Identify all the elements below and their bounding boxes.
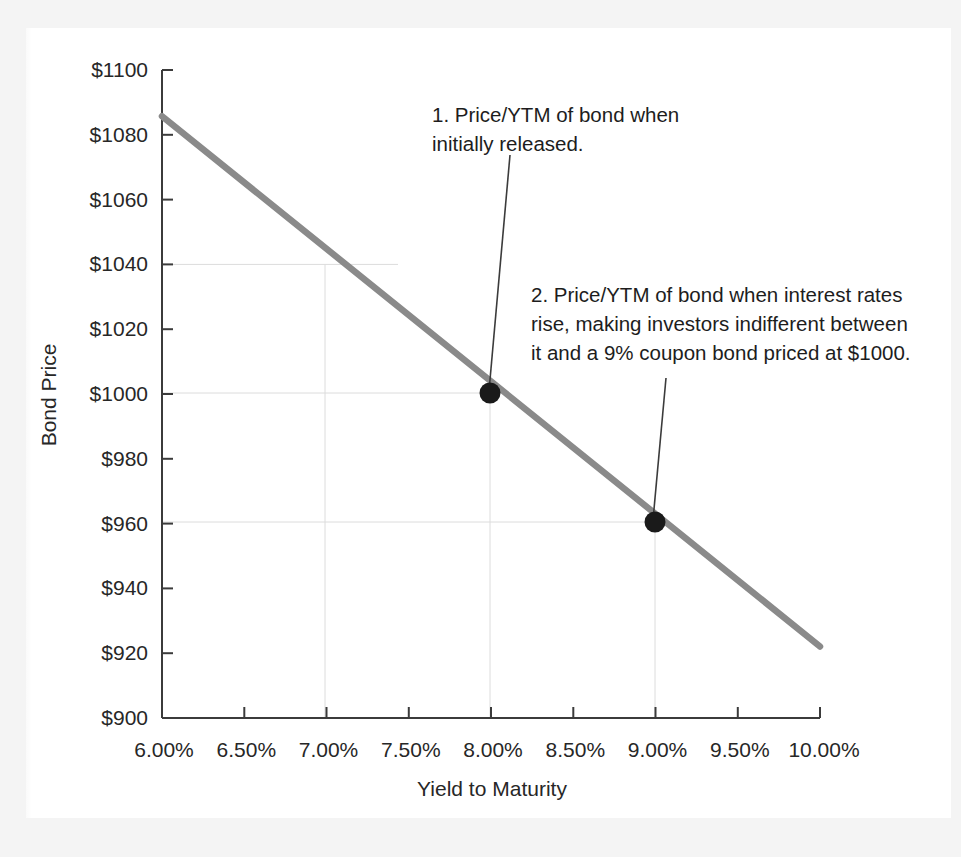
y-tick-label-1060: $1060 xyxy=(90,188,148,211)
y-axis-title: Bond Price xyxy=(37,344,60,447)
y-axis-ticks xyxy=(162,70,173,653)
y-tick-label-940: $940 xyxy=(101,576,148,599)
data-point-markers xyxy=(480,383,666,533)
leader-line-2 xyxy=(653,378,666,520)
x-tick-label-8.00: 8.00% xyxy=(463,738,523,761)
leader-line-1 xyxy=(489,155,510,391)
y-tick-label-920: $920 xyxy=(101,641,148,664)
y-tick-label-960: $960 xyxy=(101,512,148,535)
y-tick-label-980: $980 xyxy=(101,447,148,470)
x-tick-label-6.00: 6.00% xyxy=(134,738,194,761)
x-tick-label-7.50: 7.50% xyxy=(381,738,441,761)
x-tick-label-9.00: 9.00% xyxy=(628,738,688,761)
data-point-marker-1[interactable] xyxy=(480,383,501,404)
x-tick-label-7.00: 7.00% xyxy=(299,738,359,761)
annotation-1: 1. Price/YTM of bond when initially rele… xyxy=(432,103,679,155)
data-point-marker-2[interactable] xyxy=(645,512,666,533)
annotation-2: 2. Price/YTM of bond when interest rates… xyxy=(531,283,911,364)
y-tick-label-1040: $1040 xyxy=(90,252,148,275)
bond-price-yield-chart: $1100 $1080 $1060 $1040 $1020 $1000 $980… xyxy=(0,0,961,857)
annotation-2-line-3: it and a 9% coupon bond priced at $1000. xyxy=(531,341,911,364)
annotation-1-line-2: initially released. xyxy=(432,132,584,155)
x-axis-title: Yield to Maturity xyxy=(417,777,567,800)
page-canvas: $1100 $1080 $1060 $1040 $1020 $1000 $980… xyxy=(0,0,961,857)
y-tick-label-900: $900 xyxy=(101,706,148,729)
annotation-1-line-1: 1. Price/YTM of bond when xyxy=(432,103,679,126)
y-tick-label-1000: $1000 xyxy=(90,382,148,405)
x-tick-label-10.00: 10.00% xyxy=(788,738,859,761)
annotation-2-line-1: 2. Price/YTM of bond when interest rates xyxy=(531,283,902,306)
x-tick-label-6.50: 6.50% xyxy=(217,738,277,761)
chart-svg: $1100 $1080 $1060 $1040 $1020 $1000 $980… xyxy=(0,0,961,857)
y-tick-label-1080: $1080 xyxy=(90,123,148,146)
x-axis-ticks xyxy=(162,707,820,718)
y-axis-tick-labels: $1100 $1080 $1060 $1040 $1020 $1000 $980… xyxy=(90,58,148,729)
annotation-2-line-2: rise, making investors indifferent betwe… xyxy=(531,312,908,335)
x-axis-tick-labels: 6.00% 6.50% 7.00% 7.50% 8.00% 8.50% 9.00… xyxy=(134,738,859,761)
y-tick-label-1100: $1100 xyxy=(91,58,148,81)
bond-price-line xyxy=(162,116,820,646)
x-tick-label-9.50: 9.50% xyxy=(710,738,770,761)
x-tick-label-8.50: 8.50% xyxy=(546,738,606,761)
annotation-leader-lines xyxy=(489,155,666,520)
y-tick-label-1020: $1020 xyxy=(90,317,148,340)
